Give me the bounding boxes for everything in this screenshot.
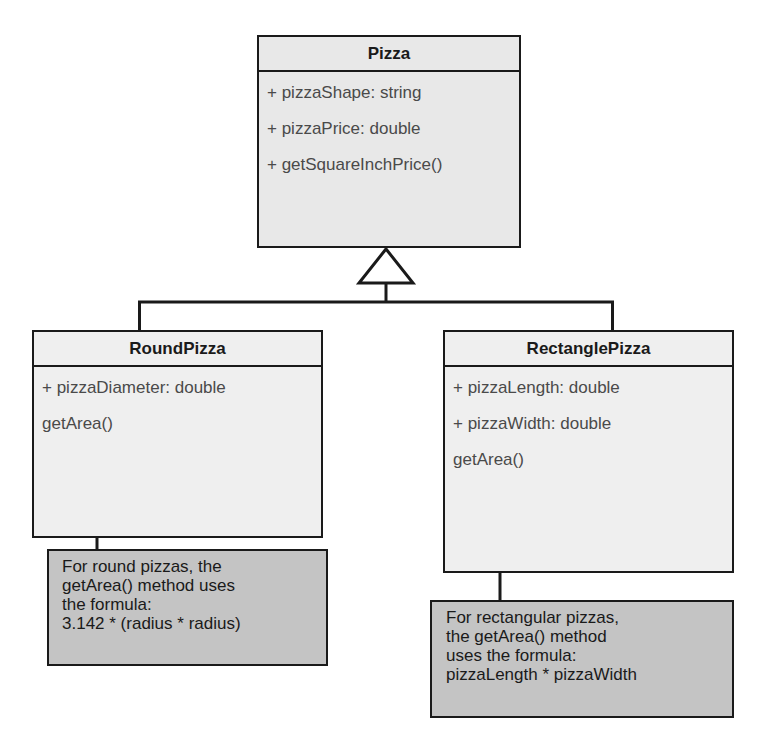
method-get-square-inch-price: + getSquareInchPrice() [267, 152, 519, 188]
attribute-pizza-shape: + pizzaShape: string [267, 80, 519, 116]
attribute-pizza-width: + pizzaWidth: double [453, 411, 732, 447]
attribute-pizza-length: + pizzaLength: double [453, 375, 732, 411]
class-round-pizza[interactable]: RoundPizza + pizzaDiameter: double getAr… [32, 330, 323, 538]
class-round-pizza-name: RoundPizza [34, 332, 321, 367]
class-rectangle-pizza[interactable]: RectanglePizza + pizzaLength: double + p… [443, 330, 734, 573]
attribute-pizza-diameter: + pizzaDiameter: double [42, 375, 321, 411]
attribute-pizza-price: + pizzaPrice: double [267, 116, 519, 152]
note-line: the formula: [62, 595, 316, 614]
class-rectangle-pizza-members: + pizzaLength: double + pizzaWidth: doub… [445, 367, 732, 483]
note-rectangle-pizza: For rectangular pizzas, the getArea() me… [430, 600, 734, 718]
note-line: For round pizzas, the [62, 557, 316, 576]
note-line: 3.142 * (radius * radius) [62, 614, 316, 633]
note-round-pizza: For round pizzas, the getArea() method u… [47, 549, 328, 666]
method-get-area: getArea() [453, 447, 732, 483]
note-line: uses the formula: [446, 646, 722, 665]
uml-diagram: Pizza + pizzaShape: string + pizzaPrice:… [0, 0, 768, 729]
class-pizza-name: Pizza [259, 37, 519, 72]
note-line: For rectangular pizzas, [446, 608, 722, 627]
inheritance-triangle-icon [359, 249, 413, 283]
class-rectangle-pizza-name: RectanglePizza [445, 332, 732, 367]
class-pizza[interactable]: Pizza + pizzaShape: string + pizzaPrice:… [257, 35, 521, 248]
method-get-area: getArea() [42, 411, 321, 447]
class-pizza-members: + pizzaShape: string + pizzaPrice: doubl… [259, 72, 519, 188]
class-round-pizza-members: + pizzaDiameter: double getArea() [34, 367, 321, 447]
note-line: the getArea() method [446, 627, 722, 646]
note-line: pizzaLength * pizzaWidth [446, 665, 722, 684]
note-line: getArea() method uses [62, 576, 316, 595]
